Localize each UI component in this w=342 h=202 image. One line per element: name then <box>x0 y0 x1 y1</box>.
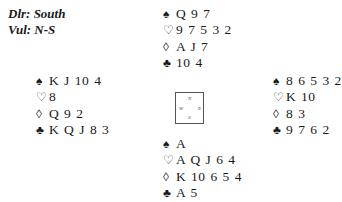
west-spades: ♠ K J 10 4 <box>36 73 109 89</box>
west-hearts: ♡ 8 <box>36 89 109 105</box>
east-clubs: ♣ 9 7 6 2 <box>273 122 342 138</box>
east-diamonds: ◊ 8 3 <box>273 106 342 122</box>
spade-icon: ♠ <box>36 73 49 89</box>
compass-box: N W E S <box>175 92 204 124</box>
west-diamonds: ◊ Q 9 2 <box>36 106 109 122</box>
south-diamonds: ◊ K 10 6 5 4 <box>163 169 242 185</box>
club-icon: ♣ <box>273 122 286 138</box>
spade-icon: ♠ <box>163 6 176 22</box>
north-hand: ♠ Q 9 7 ♡ 9 7 5 3 2 ◊ A J 7 ♣ 10 4 <box>163 6 232 71</box>
north-hearts: ♡ 9 7 5 3 2 <box>163 22 232 38</box>
spade-icon: ♠ <box>273 73 286 89</box>
spade-icon: ♠ <box>163 136 176 152</box>
south-hearts: ♡ A Q J 6 4 <box>163 152 242 168</box>
compass-south: S <box>188 115 191 120</box>
heart-icon: ♡ <box>163 152 176 168</box>
club-icon: ♣ <box>36 122 49 138</box>
diamond-icon: ◊ <box>163 169 176 185</box>
north-diamonds: ◊ A J 7 <box>163 39 232 55</box>
diamond-icon: ◊ <box>273 106 286 122</box>
compass-west: W <box>179 106 183 111</box>
dealer-label: Dlr: South <box>8 6 65 22</box>
east-hand: ♠ 8 6 5 3 2 ♡ K 10 ◊ 8 3 ♣ 9 7 6 2 <box>273 73 342 138</box>
north-spades: ♠ Q 9 7 <box>163 6 232 22</box>
club-icon: ♣ <box>163 55 176 71</box>
west-hand: ♠ K J 10 4 ♡ 8 ◊ Q 9 2 ♣ K Q J 8 3 <box>36 73 109 138</box>
south-spades: ♠ A <box>163 136 242 152</box>
heart-icon: ♡ <box>273 89 286 105</box>
vulnerability-label: Vul: N-S <box>8 22 55 38</box>
club-icon: ♣ <box>163 185 176 201</box>
east-spades: ♠ 8 6 5 3 2 <box>273 73 342 89</box>
south-clubs: ♣ A 5 <box>163 185 242 201</box>
diamond-icon: ◊ <box>36 106 49 122</box>
north-clubs: ♣ 10 4 <box>163 55 232 71</box>
compass-east: E <box>198 106 201 111</box>
east-hearts: ♡ K 10 <box>273 89 342 105</box>
diamond-icon: ◊ <box>163 39 176 55</box>
south-hand: ♠ A ♡ A Q J 6 4 ◊ K 10 6 5 4 ♣ A 5 <box>163 136 242 201</box>
heart-icon: ♡ <box>163 22 176 38</box>
west-clubs: ♣ K Q J 8 3 <box>36 122 109 138</box>
compass-north: N <box>188 96 191 101</box>
heart-icon: ♡ <box>36 89 49 105</box>
